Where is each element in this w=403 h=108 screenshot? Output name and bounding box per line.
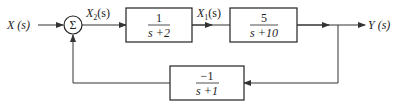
block1-numerator: 1 [156, 11, 162, 25]
block-diagram: X (s) Σ X2(s) 1 s +2 X1(s) 5 s +10 Y (s)… [0, 0, 403, 108]
x1-label: X1(s) [196, 6, 221, 22]
sigma-symbol: Σ [70, 18, 77, 32]
summing-junction: Σ [64, 16, 82, 34]
block1-denominator: s +2 [148, 26, 170, 40]
input-label: X (s) [6, 18, 30, 32]
feedback-numerator: −1 [201, 69, 214, 83]
feedback-denominator: s +1 [196, 84, 218, 98]
output-label: Y (s) [368, 18, 390, 32]
block2-denominator: s +10 [250, 26, 278, 40]
block2-numerator: 5 [261, 11, 267, 25]
feedback-block: −1 s +1 [170, 66, 244, 100]
forward-block-2: 5 s +10 [230, 8, 297, 42]
forward-block-1: 1 s +2 [126, 8, 192, 42]
x2-label: X2(s) [85, 6, 110, 22]
